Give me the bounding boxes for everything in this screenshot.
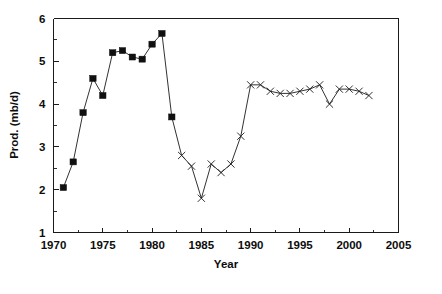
data-point-marker-x: [326, 101, 333, 108]
data-point-marker-x: [178, 152, 185, 159]
data-point-marker-x: [227, 160, 234, 167]
series-polyline: [63, 33, 369, 198]
y-tick-label: 5: [39, 55, 46, 67]
y-tick-label: 2: [39, 184, 45, 196]
x-tick-label: 1975: [90, 239, 116, 251]
data-point-marker-square: [60, 185, 66, 191]
plot-frame: [54, 19, 399, 233]
data-point-marker-square: [139, 56, 145, 62]
data-point-marker-square: [119, 48, 125, 54]
data-point-marker-square: [80, 110, 86, 116]
data-series-markers: [60, 30, 372, 201]
y-tick-label: 3: [39, 141, 45, 153]
data-point-marker-x: [217, 169, 224, 176]
data-point-marker-x: [296, 88, 303, 95]
x-tick-label: 1980: [139, 239, 165, 251]
data-point-marker-x: [316, 81, 323, 88]
data-point-marker-x: [198, 195, 205, 202]
data-point-marker-x: [188, 163, 195, 170]
x-tick-label: 2005: [386, 239, 412, 251]
data-point-marker-square: [129, 54, 135, 60]
data-point-marker-square: [70, 159, 76, 165]
y-tick-label: 1: [39, 227, 46, 239]
x-tick-label: 1970: [41, 239, 67, 251]
x-axis-ticks: [54, 228, 399, 233]
x-tick-label: 1995: [287, 239, 313, 251]
x-axis-title: Year: [214, 258, 239, 270]
data-point-marker-square: [169, 114, 175, 120]
data-series-line: [63, 33, 369, 198]
data-point-marker-square: [100, 93, 106, 99]
y-axis-ticks: [54, 19, 59, 233]
data-point-marker-x: [365, 92, 372, 99]
x-tick-label: 2000: [336, 239, 362, 251]
data-point-marker-x: [355, 88, 362, 95]
data-point-marker-x: [208, 160, 215, 167]
data-point-marker-x: [306, 86, 313, 93]
line-chart: 19701975198019851990199520002005 123456 …: [0, 0, 442, 294]
data-point-marker-x: [237, 133, 244, 140]
data-point-marker-square: [149, 41, 155, 47]
data-point-marker-square: [90, 75, 96, 81]
x-axis-tick-labels: 19701975198019851990199520002005: [41, 239, 412, 251]
data-point-marker-square: [159, 30, 165, 36]
y-tick-label: 4: [39, 98, 46, 110]
y-axis-title: Prod. (mb/d): [8, 91, 20, 159]
x-tick-label: 1985: [189, 239, 215, 251]
data-point-marker-x: [267, 88, 274, 95]
chart-container: 19701975198019851990199520002005 123456 …: [0, 0, 442, 294]
y-tick-label: 6: [39, 13, 45, 25]
data-point-marker-square: [109, 50, 115, 56]
y-axis-tick-labels: 123456: [39, 13, 46, 239]
x-tick-label: 1990: [238, 239, 264, 251]
